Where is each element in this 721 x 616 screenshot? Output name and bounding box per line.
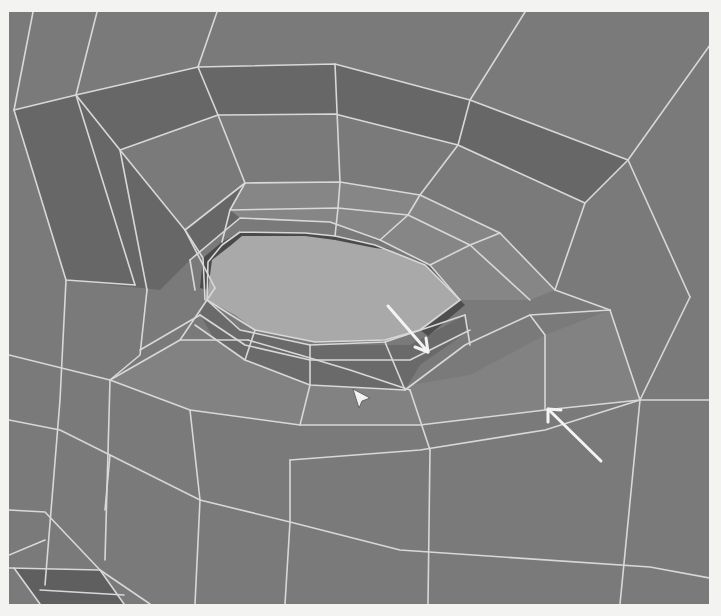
mesh-canvas[interactable]: [9, 12, 709, 604]
3d-viewport[interactable]: 3D viewport - eye socket polygon mesh: [9, 12, 709, 604]
mesh-faces: [14, 64, 640, 604]
annotation-arrow-outer: [548, 409, 601, 461]
